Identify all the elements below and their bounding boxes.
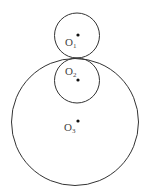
center-point-o2 [76, 78, 79, 81]
label-o2: O2 [65, 66, 76, 79]
label-o3: O3 [64, 122, 75, 135]
label-o3-subscript: 3 [72, 127, 76, 135]
center-point-o3 [76, 119, 79, 122]
label-o2-name: O [65, 65, 73, 77]
center-point-o1 [76, 33, 79, 36]
label-o3-name: O [64, 121, 72, 133]
label-o2-subscript: 2 [73, 71, 77, 79]
label-o1-name: O [65, 36, 73, 48]
tangent-circles-diagram [0, 0, 149, 195]
label-o1: O1 [65, 37, 76, 50]
label-o1-subscript: 1 [73, 42, 77, 50]
